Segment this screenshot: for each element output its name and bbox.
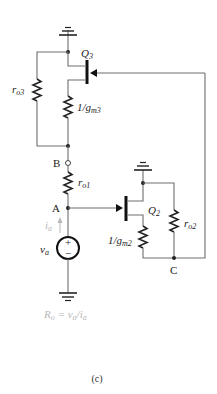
label-node-a: A [52, 202, 60, 214]
transistor-q2 [126, 183, 143, 226]
node-b-terminal [66, 161, 71, 166]
resistor-ro1 [64, 166, 72, 238]
current-arrow-icon [58, 217, 63, 233]
label-node-c: C [170, 264, 177, 276]
label-q3: Q3 [81, 47, 93, 61]
gate-arrow-icon-q3 [90, 69, 97, 77]
label-ro2: ro2 [184, 217, 196, 231]
svg-text:−: − [65, 247, 71, 259]
ground-icon-q2 [134, 163, 152, 184]
label-current: ia [45, 219, 52, 233]
circuit-diagram: + − Q3 ro3 1/gm3 B ro1 A ia va Q2 1/gm2 … [0, 0, 217, 394]
label-gm3: 1/gm3 [77, 101, 101, 115]
node-c [172, 256, 176, 260]
label-q2: Q2 [148, 204, 160, 218]
resistor-ro3 [33, 52, 68, 146]
ground-icon-top [59, 28, 77, 53]
formula-ro: Ro = va/ia [43, 308, 87, 322]
label-node-b: B [53, 157, 60, 169]
resistor-gm3 [64, 96, 72, 146]
resistor-ro2 [143, 183, 178, 258]
label-ro3: ro3 [12, 83, 24, 97]
figure-caption: (c) [91, 373, 102, 385]
voltage-source: + − [57, 236, 79, 293]
label-gm2: 1/gm2 [108, 234, 132, 248]
gate-arrow-icon-q2 [116, 204, 123, 212]
label-ro1: ro1 [78, 176, 90, 190]
ground-icon-bottom [59, 293, 77, 301]
label-source: va [40, 243, 49, 257]
